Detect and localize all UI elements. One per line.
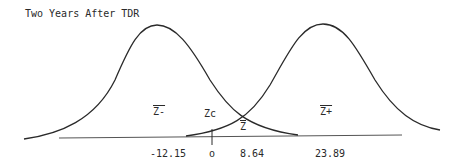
z-c-label: Zc — [204, 109, 216, 119]
tick-label-minus: -12.15 — [150, 149, 186, 159]
left-distribution-curve — [24, 25, 298, 139]
z-bar-label: Z — [240, 122, 246, 132]
figure-title: Two Years After TDR — [25, 9, 139, 19]
tick-label-mid: 8.64 — [240, 149, 264, 159]
baseline-axis — [59, 135, 402, 138]
distribution-diagram — [0, 0, 462, 168]
tick-label-plus: 23.89 — [315, 149, 345, 159]
z-minus-label: Z- — [153, 107, 165, 117]
z-plus-label: Z+ — [320, 107, 332, 117]
right-distribution-curve — [186, 24, 440, 136]
tick-label-zero: o — [209, 149, 215, 159]
